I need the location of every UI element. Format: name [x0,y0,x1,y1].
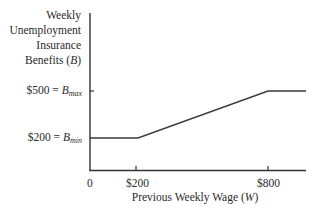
plot-area [0,0,322,218]
benefits-line [90,91,306,138]
